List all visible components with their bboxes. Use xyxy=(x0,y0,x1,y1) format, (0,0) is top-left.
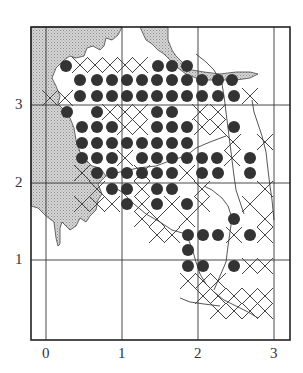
shaded-region xyxy=(31,27,122,246)
cross-marker xyxy=(257,303,273,319)
cross-marker xyxy=(134,211,150,227)
cross-marker xyxy=(195,288,211,304)
cross-marker xyxy=(192,104,208,120)
dot-marker xyxy=(106,152,118,164)
dot-marker xyxy=(121,167,133,179)
dot-marker xyxy=(196,152,208,164)
dot-marker xyxy=(166,60,178,72)
dot-marker xyxy=(121,74,133,86)
y-tick-label: 3 xyxy=(15,97,23,112)
cross-marker xyxy=(72,57,88,73)
dot-marker xyxy=(74,90,86,102)
dot-marker xyxy=(244,229,256,241)
x-tick-label: 3 xyxy=(270,346,278,361)
cross-marker xyxy=(179,165,195,181)
dot-marker xyxy=(181,152,193,164)
dot-marker xyxy=(212,229,224,241)
dot-marker xyxy=(228,213,240,225)
cross-marker xyxy=(225,134,241,150)
cross-marker xyxy=(117,104,133,120)
cross-marker xyxy=(242,88,258,104)
dot-marker xyxy=(91,167,103,179)
cross-marker xyxy=(210,288,226,304)
dot-marker xyxy=(197,229,209,241)
dot-marker xyxy=(166,167,178,179)
dot-marker xyxy=(121,198,133,210)
dot-marker xyxy=(166,90,178,102)
dot-marker xyxy=(91,152,103,164)
cross-marker xyxy=(257,288,273,304)
cross-marker xyxy=(132,119,148,135)
dot-marker xyxy=(91,74,103,86)
dot-marker xyxy=(244,167,256,179)
dot-marker xyxy=(61,106,73,118)
dot-marker xyxy=(151,121,163,133)
dot-marker xyxy=(136,167,148,179)
dot-marker xyxy=(152,60,164,72)
dot-marker xyxy=(76,137,88,149)
dot-marker xyxy=(151,106,163,118)
dot-marker xyxy=(60,60,72,72)
cross-marker xyxy=(226,227,242,243)
distribution-map xyxy=(0,0,303,373)
cross-marker xyxy=(102,57,118,73)
cross-marker xyxy=(194,119,210,135)
dot-marker xyxy=(228,90,240,102)
cross-marker xyxy=(117,150,133,166)
dot-marker xyxy=(181,198,193,210)
dot-marker xyxy=(151,198,163,210)
dot-marker xyxy=(151,74,163,86)
dot-marker xyxy=(106,137,118,149)
cross-marker xyxy=(257,227,273,243)
cross-marker xyxy=(210,104,226,120)
cross-marker xyxy=(164,196,180,212)
dot-marker xyxy=(196,74,208,86)
dot-marker xyxy=(181,137,193,149)
y-tick-label: 2 xyxy=(15,175,23,190)
dot-marker xyxy=(91,121,103,133)
dot-marker xyxy=(196,167,208,179)
dot-marker xyxy=(181,74,193,86)
dot-marker xyxy=(181,90,193,102)
dot-marker xyxy=(151,183,163,195)
dot-marker xyxy=(166,152,178,164)
dot-marker xyxy=(151,152,163,164)
dot-marker xyxy=(136,90,148,102)
cross-marker xyxy=(242,288,258,304)
dot-marker xyxy=(166,106,178,118)
dot-marker xyxy=(106,167,118,179)
cross-marker xyxy=(102,104,118,120)
shaded-top-wedge xyxy=(140,27,258,80)
dot-marker xyxy=(151,90,163,102)
dot-marker xyxy=(121,90,133,102)
cross-marker xyxy=(242,303,258,319)
cross-marker xyxy=(242,196,258,212)
dot-marker xyxy=(151,137,163,149)
dot-marker xyxy=(212,167,224,179)
cross-marker xyxy=(149,227,165,243)
dot-marker xyxy=(166,121,178,133)
dot-marker xyxy=(136,137,148,149)
dot-marker xyxy=(136,74,148,86)
dot-marker xyxy=(74,74,86,86)
dot-marker xyxy=(228,121,240,133)
dot-marker xyxy=(76,121,88,133)
cross-marker xyxy=(194,196,210,212)
dot-marker xyxy=(181,60,193,72)
dot-marker xyxy=(166,137,178,149)
dot-marker xyxy=(76,152,88,164)
x-tick-label: 1 xyxy=(118,346,126,361)
dot-marker xyxy=(106,90,118,102)
dot-marker xyxy=(106,74,118,86)
cross-marker xyxy=(117,57,133,73)
dot-marker xyxy=(182,244,194,256)
dot-marker xyxy=(182,229,194,241)
dot-marker xyxy=(181,121,193,133)
cross-marker xyxy=(226,288,242,304)
cross-marker xyxy=(195,273,211,289)
cross-marker xyxy=(257,211,273,227)
cross-marker xyxy=(132,57,148,73)
x-tick-label: 2 xyxy=(194,346,202,361)
cross-marker xyxy=(132,104,148,120)
cross-marker xyxy=(87,57,103,73)
